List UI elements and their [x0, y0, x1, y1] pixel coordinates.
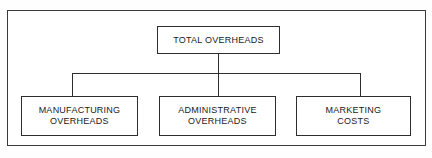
node-marketing-costs: MARKETING COSTS: [296, 96, 411, 136]
node-total-overheads-label: TOTAL OVERHEADS: [171, 35, 266, 46]
diagram-canvas: TOTAL OVERHEADS MANUFACTURING OVERHEADS …: [0, 0, 432, 158]
connector-root-stem: [218, 54, 219, 73]
connector-drop-marketing: [360, 73, 361, 96]
connector-horizontal-bus: [72, 73, 361, 74]
node-administrative-overheads: ADMINISTRATIVE OVERHEADS: [159, 96, 276, 136]
node-total-overheads: TOTAL OVERHEADS: [157, 26, 280, 54]
node-marketing-costs-label: MARKETING COSTS: [324, 105, 384, 127]
node-manufacturing-overheads-label: MANUFACTURING OVERHEADS: [37, 105, 123, 127]
connector-drop-manufacturing: [72, 73, 73, 96]
node-manufacturing-overheads: MANUFACTURING OVERHEADS: [21, 96, 138, 136]
connector-drop-administrative: [218, 73, 219, 96]
node-administrative-overheads-label: ADMINISTRATIVE OVERHEADS: [176, 105, 258, 127]
